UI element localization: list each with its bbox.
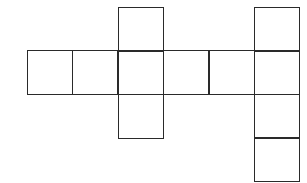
square-row-4 [163,50,209,95]
square-right-col-1 [254,7,300,52]
square-row-5 [209,50,255,95]
square-bottom-middle [118,94,164,139]
square-row-3-center [118,50,164,95]
square-grid-diagram [0,0,307,183]
square-row-2 [72,50,118,95]
square-right-col-4 [254,137,300,182]
square-row-1 [27,50,73,95]
square-top-middle [118,7,164,52]
square-right-col-3 [254,94,300,139]
square-right-col-2 [254,50,300,95]
